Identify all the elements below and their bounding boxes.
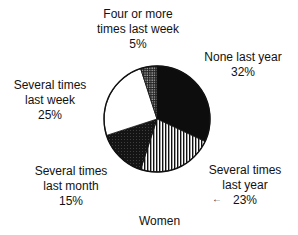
label-percent: 32% bbox=[193, 65, 293, 80]
stray-pen-mark: ← bbox=[212, 193, 222, 204]
label-four-or-more: Four or more times last week 5% bbox=[88, 7, 188, 52]
label-line: last week bbox=[7, 93, 93, 108]
label-line: None last year bbox=[193, 50, 293, 65]
label-line: Four or more bbox=[88, 7, 188, 22]
label-none-last-year: None last year 32% bbox=[193, 50, 293, 80]
label-line: times last week bbox=[88, 22, 188, 37]
label-percent: 15% bbox=[28, 194, 114, 209]
label-line: last month bbox=[28, 179, 114, 194]
label-percent: 25% bbox=[7, 108, 93, 123]
label-line: Several times bbox=[200, 163, 290, 178]
label-several-last-week: Several times last week 25% bbox=[7, 78, 93, 123]
label-line: last year bbox=[200, 178, 290, 193]
label-line: Several times bbox=[28, 164, 114, 179]
label-line: Several times bbox=[7, 78, 93, 93]
chart-title: Women bbox=[139, 214, 180, 228]
label-several-last-month: Several times last month 15% bbox=[28, 164, 114, 209]
label-percent: 5% bbox=[88, 37, 188, 52]
